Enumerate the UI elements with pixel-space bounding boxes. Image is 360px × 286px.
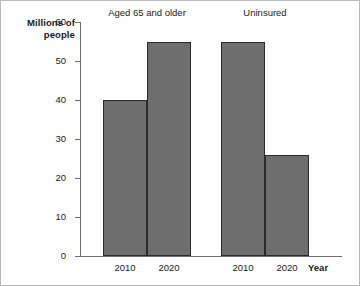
x-axis-tick-label: 2010	[232, 263, 253, 273]
bar	[147, 42, 191, 257]
x-axis-title: Year	[308, 263, 328, 273]
y-axis-tick-label: 50	[55, 56, 66, 66]
y-axis-tick: 50	[75, 61, 81, 62]
y-axis-tick: 40	[75, 100, 81, 101]
y-axis-tick-label: 40	[55, 95, 66, 105]
y-axis-tick-label: 10	[55, 212, 66, 222]
y-axis-tick-label: 20	[55, 173, 66, 183]
y-axis-tick-label: 30	[55, 134, 66, 144]
y-axis-tick: 60	[75, 22, 81, 23]
x-axis-line	[80, 256, 342, 257]
y-axis-tick: 30	[75, 139, 81, 140]
bar	[221, 42, 265, 257]
y-axis-tick-label: 0	[61, 251, 66, 261]
x-axis-tick-label: 2020	[276, 263, 297, 273]
y-axis-tick-label: 60	[55, 17, 66, 27]
y-axis-tick: 20	[75, 178, 81, 179]
bar	[103, 100, 147, 256]
y-axis-tick: 10	[75, 217, 81, 218]
bar-chart-figure: Millions of people 0102030405060 Aged 65…	[0, 0, 360, 286]
group-title: Aged 65 and older	[108, 8, 186, 18]
plot-area: 0102030405060 Aged 65 and olderUninsured…	[80, 22, 342, 257]
x-axis-tick-label: 2010	[114, 263, 135, 273]
bar	[265, 155, 309, 256]
group-title: Uninsured	[243, 8, 286, 18]
x-axis-tick-label: 2020	[158, 263, 179, 273]
y-axis-tick: 0	[75, 256, 81, 257]
